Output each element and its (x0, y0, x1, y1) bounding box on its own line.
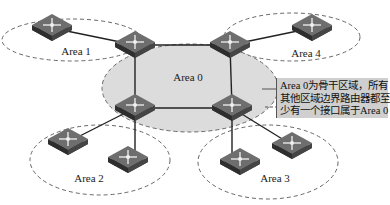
area0-boundary (102, 44, 278, 132)
area3-boundary (198, 125, 338, 199)
router-area2-b (108, 146, 148, 173)
router-area4 (292, 14, 332, 41)
callout-line-1: Area 0为骨干区域，所有 (280, 80, 385, 93)
router-area3-a (220, 148, 260, 175)
area3-label: Area 3 (260, 172, 290, 184)
router-area2-a (48, 128, 88, 155)
area4-label: Area 4 (291, 47, 321, 59)
router-area1 (32, 14, 72, 41)
area2-label: Area 2 (74, 172, 104, 184)
callout-line-2: 其他区域边界路由器都至 (280, 93, 385, 106)
area1-label: Area 1 (61, 45, 91, 57)
area0-label: Area 0 (173, 71, 203, 83)
backbone-callout: Area 0为骨干区域，所有 其他区域边界路由器都至 少有一个接口属于Area … (276, 78, 388, 118)
callout-line-3: 少有一个接口属于Area 0 (280, 105, 385, 118)
area2-boundary (30, 125, 170, 195)
